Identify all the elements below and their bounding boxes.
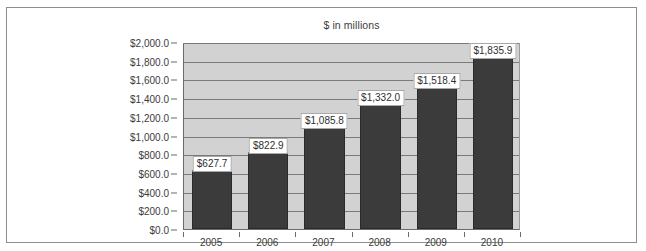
gridline xyxy=(184,211,519,212)
y-tick-mark xyxy=(171,61,177,62)
y-tick-mark xyxy=(171,192,177,193)
data-label-2009: $1,518.4 xyxy=(413,73,460,89)
y-tick-mark xyxy=(171,99,177,100)
gridline xyxy=(184,137,519,138)
chart-frame: $ in millions $627.7$822.9$1,085.8$1,332… xyxy=(6,7,637,243)
gridline xyxy=(184,155,519,156)
x-tick-mark xyxy=(464,232,465,237)
x-tick-mark xyxy=(183,232,184,237)
y-axis: $2,000.0$1,800.0$1,600.0$1,400.0$1,200.0… xyxy=(103,43,177,230)
bar-2009[interactable] xyxy=(417,87,457,229)
y-tick-label: $1,800.0 xyxy=(130,56,169,67)
bar-2005[interactable] xyxy=(192,170,232,229)
bar-2006[interactable] xyxy=(248,152,288,229)
y-tick-label: $600.0 xyxy=(138,168,169,179)
data-label-2007: $1,085.8 xyxy=(301,113,348,129)
plot-area: $627.7$822.9$1,085.8$1,332.0$1,518.4$1,8… xyxy=(183,43,520,230)
y-tick-label: $200.0 xyxy=(138,206,169,217)
x-tick-label-2010: 2010 xyxy=(481,237,503,248)
y-tick-mark xyxy=(171,43,177,44)
y-tick-mark xyxy=(171,230,177,231)
y-tick-mark xyxy=(171,173,177,174)
y-tick-label: $1,400.0 xyxy=(130,94,169,105)
y-tick-label: $400.0 xyxy=(138,187,169,198)
y-tick-mark xyxy=(171,80,177,81)
chart-title: $ in millions xyxy=(183,19,520,31)
y-tick-label: $0.0 xyxy=(150,225,169,236)
y-tick-label: $800.0 xyxy=(138,150,169,161)
gridline xyxy=(184,193,519,194)
gridline xyxy=(184,80,519,81)
y-tick-label: $1,200.0 xyxy=(130,112,169,123)
x-tick-label-2009: 2009 xyxy=(425,237,447,248)
x-tick-mark xyxy=(520,232,521,237)
x-tick-label-2005: 2005 xyxy=(200,237,222,248)
y-tick-mark xyxy=(171,211,177,212)
x-axis: 200520062007200820092010 xyxy=(183,232,520,250)
y-tick-mark xyxy=(171,136,177,137)
data-label-2006: $822.9 xyxy=(249,138,288,154)
bar-2007[interactable] xyxy=(304,127,344,229)
x-tick-label-2007: 2007 xyxy=(312,237,334,248)
y-tick-label: $1,000.0 xyxy=(130,131,169,142)
x-tick-label-2006: 2006 xyxy=(256,237,278,248)
gridline xyxy=(184,62,519,63)
gridline xyxy=(184,99,519,100)
gridline xyxy=(184,118,519,119)
x-tick-mark xyxy=(352,232,353,237)
data-label-2010: $1,835.9 xyxy=(469,43,516,59)
bar-2008[interactable] xyxy=(360,104,400,229)
gridline xyxy=(184,174,519,175)
data-label-2005: $627.7 xyxy=(193,156,232,172)
data-label-2008: $1,332.0 xyxy=(357,90,404,106)
y-tick-mark xyxy=(171,155,177,156)
x-tick-mark xyxy=(239,232,240,237)
y-tick-label: $1,600.0 xyxy=(130,75,169,86)
x-tick-label-2008: 2008 xyxy=(368,237,390,248)
y-tick-label: $2,000.0 xyxy=(130,38,169,49)
x-tick-mark xyxy=(295,232,296,237)
y-tick-mark xyxy=(171,117,177,118)
bar-2010[interactable] xyxy=(473,57,513,229)
x-tick-mark xyxy=(408,232,409,237)
